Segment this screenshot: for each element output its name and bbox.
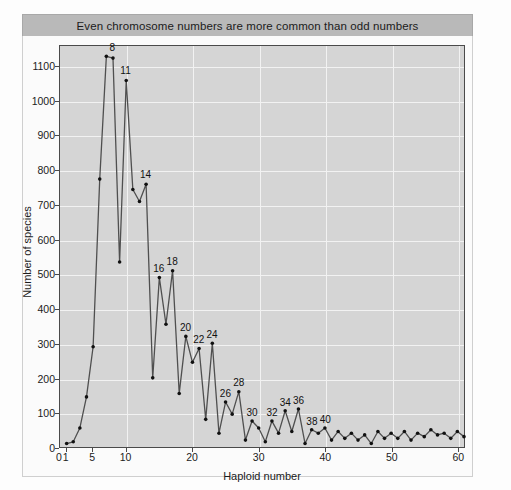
data-point <box>396 437 400 441</box>
x-tick-mark-5 <box>92 448 93 452</box>
data-point <box>158 276 162 280</box>
data-point <box>184 335 188 339</box>
data-point <box>257 426 261 430</box>
data-point <box>250 419 254 423</box>
y-tick-mark-400 <box>55 309 59 310</box>
peak-label-8: 8 <box>109 42 115 53</box>
data-point <box>449 437 453 441</box>
data-point <box>105 55 109 59</box>
x-tick-label-40: 40 <box>319 451 331 463</box>
peak-label-14: 14 <box>140 169 151 180</box>
data-point <box>350 431 354 435</box>
data-point <box>290 430 294 434</box>
data-point <box>283 409 287 413</box>
y-tick-label-1000: 1000 <box>3 95 55 107</box>
data-point <box>211 342 215 346</box>
peak-label-40: 40 <box>320 414 331 425</box>
y-tick-label-100: 100 <box>3 407 55 419</box>
y-tick-mark-1100 <box>55 66 59 67</box>
plot-wrapper: 010020030040050060070080090010001100 015… <box>0 0 511 490</box>
plot-area <box>59 45 465 448</box>
data-point <box>237 390 241 394</box>
data-point <box>230 412 234 416</box>
data-point <box>323 426 327 430</box>
y-tick-mark-600 <box>55 240 59 241</box>
y-tick-label-900: 900 <box>3 129 55 141</box>
y-tick-mark-100 <box>55 413 59 414</box>
peak-label-18: 18 <box>167 256 178 267</box>
y-tick-mark-900 <box>55 135 59 136</box>
data-point <box>138 200 142 204</box>
data-point <box>403 430 407 434</box>
data-series-line <box>60 46 464 447</box>
data-point <box>436 433 440 437</box>
data-point <box>124 79 128 83</box>
data-point <box>310 428 314 432</box>
data-point <box>177 392 181 396</box>
peak-label-34: 34 <box>280 397 291 408</box>
data-point <box>356 438 360 442</box>
data-point <box>369 442 373 446</box>
data-point <box>85 395 89 399</box>
data-point <box>330 438 334 442</box>
x-tick-mark-40 <box>325 448 326 452</box>
y-tick-mark-1000 <box>55 101 59 102</box>
data-point <box>191 361 195 365</box>
y-tick-mark-700 <box>55 205 59 206</box>
x-tick-mark-10 <box>126 448 127 452</box>
data-point <box>462 435 466 439</box>
peak-label-11: 11 <box>120 65 130 76</box>
data-point <box>264 440 268 444</box>
data-point <box>244 438 248 442</box>
series-polyline <box>67 56 464 443</box>
data-point <box>277 431 281 435</box>
x-tick-label-60: 60 <box>453 451 465 463</box>
data-point <box>151 376 155 380</box>
data-point <box>197 347 201 351</box>
data-point <box>204 418 208 422</box>
data-point <box>118 260 122 264</box>
data-point <box>409 438 413 442</box>
x-tick-mark-1 <box>66 448 67 452</box>
data-point <box>131 188 135 192</box>
data-point <box>456 430 460 434</box>
data-point <box>416 431 420 435</box>
y-tick-mark-0 <box>55 448 59 449</box>
data-point <box>78 426 82 430</box>
peak-label-30: 30 <box>246 407 257 418</box>
peak-label-20: 20 <box>180 322 191 333</box>
data-point <box>297 407 301 411</box>
x-axis-tick-labels: 015102030405060 <box>0 451 511 467</box>
data-point <box>224 400 228 404</box>
data-point <box>317 431 321 435</box>
data-point <box>171 269 175 273</box>
peak-label-26: 26 <box>220 388 231 399</box>
x-tick-label-10: 10 <box>120 451 132 463</box>
data-point <box>429 428 433 432</box>
data-point <box>343 437 347 441</box>
data-point <box>91 345 95 349</box>
x-tick-label-50: 50 <box>386 451 398 463</box>
data-point <box>217 431 221 435</box>
data-point <box>144 182 148 186</box>
x-tick-label-1: 1 <box>63 451 69 463</box>
y-tick-label-1100: 1100 <box>3 60 55 72</box>
y-tick-mark-500 <box>55 274 59 275</box>
data-point <box>376 430 380 434</box>
peak-label-24: 24 <box>207 329 218 340</box>
data-point <box>336 430 340 434</box>
x-tick-label-5: 5 <box>89 451 95 463</box>
data-point <box>164 322 168 326</box>
data-point <box>65 442 69 446</box>
peak-label-36: 36 <box>293 395 304 406</box>
y-axis-title: Number of species <box>21 152 33 352</box>
data-point <box>442 431 446 435</box>
x-tick-mark-50 <box>392 448 393 452</box>
peak-label-22: 22 <box>193 334 204 345</box>
figure-container: Even chromosome numbers are more common … <box>0 0 511 490</box>
data-point <box>422 435 426 439</box>
data-point <box>270 419 274 423</box>
peak-label-28: 28 <box>233 377 244 388</box>
x-tick-mark-30 <box>259 448 260 452</box>
x-tick-label-30: 30 <box>253 451 265 463</box>
